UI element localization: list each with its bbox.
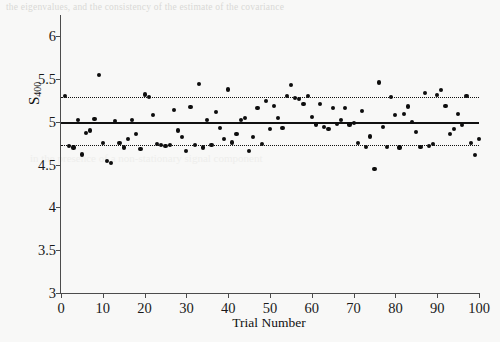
data-point [201, 145, 205, 149]
data-point [372, 167, 376, 171]
data-point [352, 121, 356, 125]
data-point [276, 116, 280, 120]
y-axis-tick [56, 79, 61, 80]
data-point [326, 127, 330, 131]
data-point [134, 132, 138, 136]
data-point [385, 145, 389, 149]
data-point [92, 117, 96, 121]
y-axis-tick [56, 165, 61, 166]
x-axis-tick [103, 293, 104, 298]
x-axis-tick [270, 293, 271, 298]
data-point [80, 152, 84, 156]
x-axis-tick-label: 80 [388, 300, 403, 317]
data-point [314, 122, 318, 126]
plot-area: 33.544.555.560102030405060708090100 [60, 15, 479, 294]
data-point [163, 144, 167, 148]
data-point [452, 127, 456, 131]
x-axis-tick-label: 60 [305, 300, 320, 317]
data-point [222, 137, 226, 141]
x-axis-tick-label: 70 [346, 300, 361, 317]
data-point [460, 123, 464, 127]
data-point [272, 104, 276, 108]
x-axis-tick-label: 10 [96, 300, 111, 317]
data-point [260, 142, 264, 146]
data-point [218, 126, 222, 130]
data-point [343, 106, 347, 110]
data-point [306, 94, 310, 98]
data-point [251, 135, 255, 139]
data-point [289, 83, 293, 87]
x-axis-label: Trial Number [232, 315, 305, 331]
x-axis-tick [437, 293, 438, 298]
data-point [63, 94, 67, 98]
data-point [402, 112, 406, 116]
x-axis-tick [145, 293, 146, 298]
x-axis-tick [479, 293, 480, 298]
x-axis-tick-label: 100 [468, 300, 490, 317]
reference-line-upper-bound [61, 97, 479, 98]
data-point [151, 113, 155, 117]
x-axis-tick [354, 293, 355, 298]
data-point [234, 132, 238, 136]
data-point [226, 87, 230, 91]
y-axis-tick-label: 3 [49, 285, 56, 302]
data-point [406, 104, 410, 108]
data-point [473, 153, 477, 157]
x-axis-tick-label: 0 [57, 300, 64, 317]
data-point [255, 106, 259, 110]
y-axis-tick-label: 4 [49, 199, 56, 216]
data-point [443, 104, 447, 108]
x-axis-tick-label: 20 [137, 300, 152, 317]
y-axis-tick-label: 6 [49, 28, 56, 45]
x-axis-tick [186, 293, 187, 298]
data-point [301, 102, 305, 106]
data-point [310, 115, 314, 119]
x-axis-tick [61, 293, 62, 298]
data-point [172, 108, 176, 112]
data-point [180, 135, 184, 139]
reference-line-mean [61, 122, 479, 124]
data-point [381, 125, 385, 129]
data-point [193, 143, 197, 147]
data-point [264, 99, 268, 103]
data-point [209, 143, 213, 147]
data-point [393, 113, 397, 117]
data-point [397, 145, 401, 149]
y-axis-label-base: S [26, 97, 42, 105]
data-point [335, 122, 339, 126]
data-point [377, 80, 381, 84]
data-point [138, 147, 142, 151]
x-axis-tick-label: 90 [430, 300, 445, 317]
data-point [168, 143, 172, 147]
data-point [268, 127, 272, 131]
data-point [126, 137, 130, 141]
y-axis-tick-label: 5 [49, 113, 56, 130]
data-point [414, 130, 418, 134]
data-point [247, 149, 251, 153]
x-axis-tick [228, 293, 229, 298]
data-point [243, 116, 247, 120]
y-axis-tick [56, 207, 61, 208]
y-axis-tick [56, 36, 61, 37]
data-point [176, 128, 180, 132]
data-point [109, 161, 113, 165]
scatter-chart: S400 33.544.555.560102030405060708090100… [0, 0, 500, 342]
data-point [477, 137, 481, 141]
data-point [423, 91, 427, 95]
data-point [448, 132, 452, 136]
data-point [360, 109, 364, 113]
scanned-page: the eigenvalues, and the consistency of … [0, 0, 500, 342]
data-point [197, 82, 201, 86]
y-axis-tick [56, 250, 61, 251]
data-point [368, 134, 372, 138]
data-point [230, 140, 234, 144]
data-point [147, 95, 151, 99]
y-axis-tick-label: 5.5 [38, 71, 56, 88]
data-point [285, 94, 289, 98]
y-axis-tick-label: 4.5 [38, 156, 56, 173]
data-point [122, 145, 126, 149]
data-point [184, 149, 188, 153]
data-point [389, 95, 393, 99]
data-point [331, 106, 335, 110]
data-point [188, 105, 192, 109]
